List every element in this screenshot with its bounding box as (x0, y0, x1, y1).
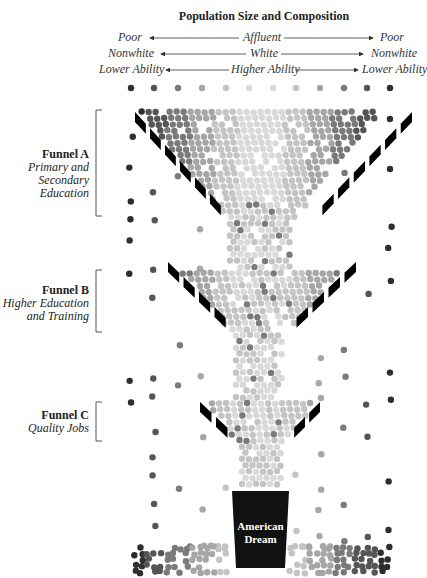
cup-label-line1: American (237, 520, 283, 532)
funnel-a-desc: Education (0, 187, 89, 200)
axis-arrows (150, 38, 373, 70)
funnel-b-desc: and Training (0, 310, 89, 323)
bracket-funnel-c (96, 402, 102, 441)
funnel-brackets (96, 110, 102, 441)
funnel-b-label: Funnel B Higher Education and Training (0, 284, 89, 323)
funnel-a-label: Funnel A Primary and Secondary Education (0, 148, 89, 200)
funnel-c-desc: Quality Jobs (0, 422, 89, 435)
bracket-funnel-a (96, 110, 102, 216)
bracket-funnel-b (96, 270, 102, 332)
funnel-c-label: Funnel C Quality Jobs (0, 409, 89, 435)
cup-label: American Dream (232, 520, 289, 546)
cup-label-line2: Dream (244, 533, 276, 545)
